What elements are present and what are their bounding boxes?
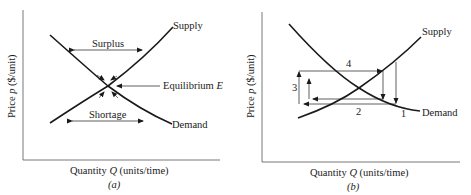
panel-b-cobweb-diagram: 1 2 3 4 Supply Demand Price p ($/unit) Q… [235,0,471,195]
equilibrium-var: E [216,80,222,91]
shortage-label: Shortage [89,110,126,121]
equilibrium-text: Equilibrium [163,80,214,91]
supply-label: Supply [422,27,452,38]
y-axis-label: Price p ($/unit) [246,54,257,118]
x-axis-units: (units/time) [120,165,169,176]
x-axis-label: Quantity Q (units/time) [70,166,169,177]
surplus-label: Surplus [92,39,124,50]
demand-curve [289,24,420,111]
x-axis-var: Q [349,167,357,178]
y-axis-var: p [6,89,17,94]
y-axis-label-text: Price [245,96,256,118]
x-axis-var: Q [109,165,117,176]
panel-b-caption: (b) [347,182,359,193]
y-axis-units: ($/unit) [6,54,17,86]
panel-a-caption: (a) [108,180,120,191]
step-label-1: 1 [401,109,406,119]
x-axis-label-text: Quantity [310,167,347,178]
x-axis-label-text: Quantity [70,165,107,176]
demand-label: Demand [172,120,208,131]
step-label-2: 2 [356,107,361,118]
x-axis-label: Quantity Q (units/time) [310,168,409,179]
supply-label: Supply [173,21,203,32]
y-axis-label: Price p ($/unit) [7,54,18,118]
y-axis-units: ($/unit) [245,54,256,86]
panel-a-equilibrium-diagram: Supply Demand Surplus Shortage Equilibri… [0,0,235,195]
equilibrium-label: Equilibrium E [163,81,223,92]
step-label-3: 3 [292,83,297,94]
x-axis-units: (units/time) [360,167,409,178]
convergence-arrow [99,92,104,98]
y-axis-label-text: Price [6,96,17,118]
y-axis-var: p [245,89,256,94]
demand-label: Demand [422,108,458,119]
step-label-4: 4 [346,59,351,70]
